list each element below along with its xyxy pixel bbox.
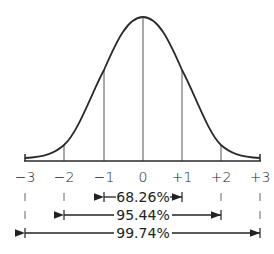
- range-label-68: 68.26%: [116, 189, 169, 205]
- tick-labels: −3 −2 −1 0 +1 +2 +3: [15, 169, 271, 185]
- tick-label: +3: [250, 169, 271, 185]
- range-label-99: 99.74%: [116, 225, 169, 241]
- tick-label: −1: [94, 169, 115, 185]
- sigma-lines: [64, 17, 221, 161]
- range-99: 99.74%: [25, 225, 260, 241]
- tick-label: +1: [172, 169, 193, 185]
- range-68: 68.26%: [104, 189, 182, 205]
- tick-label: −3: [15, 169, 36, 185]
- range-label-95: 95.44%: [116, 207, 169, 223]
- tick-label: 0: [139, 169, 148, 185]
- normal-distribution-diagram: −3 −2 −1 0 +1 +2 +3 68.26% 95.44% 99.74%: [0, 0, 274, 254]
- tick-label: +2: [211, 169, 232, 185]
- tick-label: −2: [54, 169, 75, 185]
- range-95: 95.44%: [64, 207, 221, 223]
